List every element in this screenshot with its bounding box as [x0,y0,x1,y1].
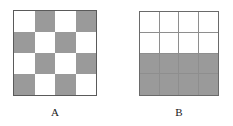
grid-cell-b-r1c4 [199,12,219,33]
grid-cell-b-r4c2 [160,74,180,95]
grid-cell-a-r4c4 [76,74,97,95]
grid-cell-a-r3c1 [14,53,35,74]
grid-cell-a-r1c2 [35,11,56,32]
grid-cell-b-r1c2 [160,12,180,33]
grid-cell-b-r4c3 [179,74,199,95]
grid-cell-b-r3c2 [160,54,180,75]
grid-b [139,11,219,96]
grid-cell-a-r4c2 [35,74,56,95]
grid-cell-a-r3c3 [55,53,76,74]
figure-panel-b [139,11,219,96]
grid-cell-b-r3c3 [179,54,199,75]
grid-cell-b-r2c2 [160,33,180,54]
grid-a [13,10,97,96]
grid-cell-a-r3c4 [76,53,97,74]
grid-cell-b-r4c4 [199,74,219,95]
grid-cell-b-r1c1 [140,12,160,33]
caption-b: B [139,107,219,118]
grid-cell-a-r2c2 [35,32,56,53]
caption-a: A [13,107,97,118]
grid-cell-a-r3c2 [35,53,56,74]
grid-cell-a-r2c4 [76,32,97,53]
grid-cell-a-r2c3 [55,32,76,53]
grid-cell-a-r2c1 [14,32,35,53]
figure-panel-a [13,10,97,96]
grid-cell-b-r2c4 [199,33,219,54]
figure-canvas: A B [0,0,233,126]
grid-cell-b-r3c4 [199,54,219,75]
grid-cell-a-r4c3 [55,74,76,95]
grid-cell-a-r4c1 [14,74,35,95]
grid-cell-b-r1c3 [179,12,199,33]
grid-cell-b-r4c1 [140,74,160,95]
grid-cell-b-r2c1 [140,33,160,54]
grid-cell-a-r1c1 [14,11,35,32]
grid-cell-b-r3c1 [140,54,160,75]
grid-cell-a-r1c4 [76,11,97,32]
grid-cell-b-r2c3 [179,33,199,54]
grid-cell-a-r1c3 [55,11,76,32]
